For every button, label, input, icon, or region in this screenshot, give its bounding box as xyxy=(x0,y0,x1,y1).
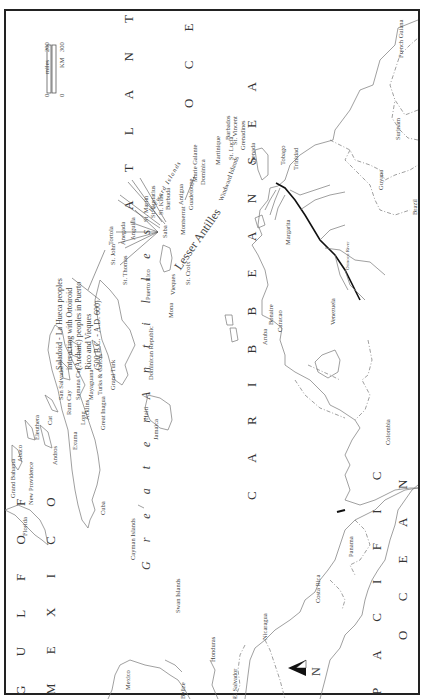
label-st-thomas: St. Thomas xyxy=(122,256,129,286)
label-costa-rica: Costa Rica xyxy=(315,575,322,603)
label-colombia: Colombia xyxy=(385,419,392,445)
label-florida: Florida xyxy=(22,517,29,536)
label-saba: Saba xyxy=(162,225,169,238)
label-swan-islands: Swan Islands xyxy=(175,579,182,613)
label-el-salvador: El Salvador xyxy=(232,668,239,699)
label-caribbean-sea: C A R I B B E A N S E A xyxy=(245,69,258,500)
label-mexico-country: Mexico xyxy=(125,670,132,690)
label-panama: Panama xyxy=(348,536,355,557)
label-tortola: Tortola xyxy=(108,226,115,245)
label-surinam: Surinam xyxy=(395,118,402,140)
label-andros: Andros xyxy=(52,446,59,465)
label-venezuela: Venezuela xyxy=(330,298,337,325)
label-marie-galante: Marie Galante xyxy=(192,145,199,182)
label-aruba: Aruba xyxy=(262,329,269,345)
label-cayman: Cayman Islands xyxy=(130,518,137,560)
scale-km-max: 300 xyxy=(59,42,66,52)
label-samana-cay: Samana Cay xyxy=(75,367,82,400)
label-anguilla: Anguilla xyxy=(130,217,137,240)
label-guyana: Guyana xyxy=(378,170,385,190)
label-anegada: Anegada xyxy=(120,222,127,245)
scale-miles-min: 0 xyxy=(44,94,51,97)
label-eleuthera: Eleuthera xyxy=(34,415,41,440)
label-grenadines: Grenadines xyxy=(240,120,247,150)
label-st-eustatius: St. Eustatius xyxy=(150,185,157,218)
label-margarita: Margarita xyxy=(285,219,292,245)
label-new-providence: New Providence xyxy=(28,462,35,505)
label-rum-cay: Rum Cay xyxy=(66,390,73,415)
scale-km-min: 0 xyxy=(59,94,66,97)
label-guadeloupe: Guadeloupe xyxy=(188,179,195,210)
label-cuba: Cuba xyxy=(100,501,107,515)
label-grand-turk: Grand Turk xyxy=(110,360,117,390)
label-st-croix: St. Croix xyxy=(185,262,192,285)
label-san-salvador: San Salvador xyxy=(58,366,65,400)
label-vieques: Vieques xyxy=(170,274,177,295)
label-atlantic: A T L A N T I C xyxy=(122,0,135,210)
south-america-coast xyxy=(252,20,418,505)
label-martinique: Martinique xyxy=(215,136,222,165)
north-arrow-icon xyxy=(288,660,306,676)
label-mexico: M E X I C O xyxy=(44,484,57,695)
label-jamaica: Jamaica xyxy=(153,419,160,440)
label-montserrat: Montserrat xyxy=(180,206,187,235)
label-pacific-ocean: O C E A N xyxy=(396,467,409,640)
label-french-guiana: French Guiana xyxy=(398,20,405,58)
label-grenada: Grenada xyxy=(250,143,257,165)
label-st-vincent: St. Vincent xyxy=(232,116,239,145)
label-turks-caicos: Turks & Caicos xyxy=(97,354,104,395)
label-exuma: Exuma xyxy=(72,432,79,450)
label-tobago: Tobago xyxy=(280,146,287,165)
label-atlantic-ocean: O C E A N xyxy=(182,0,195,108)
label-dominica: Dominica xyxy=(200,159,207,185)
puerto-rico-outline xyxy=(160,245,172,272)
label-curacao: Curacao xyxy=(277,310,284,332)
label-honduras: Honduras xyxy=(210,637,217,662)
north-label: N xyxy=(310,667,322,676)
label-st-john: St. John xyxy=(110,244,117,265)
label-dominican-republic: Dominican Republic xyxy=(148,326,155,380)
scale-miles-max: 200 xyxy=(44,42,51,52)
scale-miles-label: miles xyxy=(44,60,51,74)
central-america-coast xyxy=(245,488,418,699)
label-trinidad: Trinidad xyxy=(293,148,300,170)
label-barbuda: Barbuda xyxy=(165,188,172,210)
label-abaco: Abaco xyxy=(17,445,24,462)
label-orinoco: Orinoco River xyxy=(345,241,350,270)
label-brazil: Brazil xyxy=(412,199,419,215)
scale-km-label: KM xyxy=(59,58,66,68)
label-belize: Belize xyxy=(180,682,187,699)
label-great-inagua: Great Inagua xyxy=(100,396,107,430)
label-antigua: Antigua xyxy=(178,184,185,205)
label-puerto-rico: Puerto Rico xyxy=(145,269,152,300)
label-mayaguana: Mayaguana xyxy=(88,370,95,400)
label-mona: Mona xyxy=(168,303,175,318)
label-pacific: P A C I F I C xyxy=(370,459,383,695)
label-cat: Cat xyxy=(47,416,54,425)
label-nicaragua: Nicaragua xyxy=(262,613,269,640)
label-bonaire: Bonaire xyxy=(268,304,275,325)
label-grand-bahama: Grand Bahama xyxy=(10,459,17,498)
label-haiti: Haiti xyxy=(143,407,150,420)
label-acklins: Acklins xyxy=(84,400,91,420)
